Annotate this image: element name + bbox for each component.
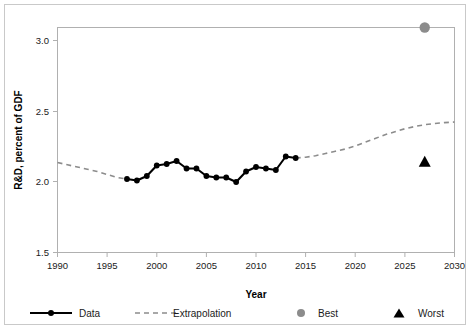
data-point-marker [293, 155, 299, 161]
legend-label-data: Data [79, 308, 101, 319]
data-point-marker [174, 158, 180, 164]
legend-item-best[interactable]: Best [297, 308, 338, 319]
x-tick-label: 1990 [47, 260, 68, 271]
x-tick-label: 2000 [146, 260, 167, 271]
plot-area-frame [58, 28, 455, 253]
y-tick-label: 3.0 [36, 35, 49, 46]
data-point-marker [134, 178, 140, 184]
data-point-marker [144, 173, 150, 179]
data-point-marker [213, 175, 219, 181]
legend-label-worst: Worst [418, 308, 444, 319]
data-point-marker [273, 167, 279, 173]
data-point-marker [124, 176, 130, 182]
data-point-marker [283, 154, 289, 160]
x-tick-label: 2015 [295, 260, 316, 271]
data-point-marker [223, 175, 229, 181]
legend-circle-best [297, 309, 305, 317]
legend-item-extrapolation[interactable]: Extrapolation [135, 308, 231, 319]
chart-figure: 3.0 2.5 2.0 1.5 R&D, percent of GDF 1990… [0, 0, 471, 330]
x-tick-label: 1995 [97, 260, 118, 271]
y-tick-label: 2.0 [36, 176, 49, 187]
data-point-marker [243, 169, 249, 175]
data-point-marker [263, 166, 269, 172]
y-axis-title: R&D, percent of GDF [13, 90, 24, 189]
chart-canvas: 3.0 2.5 2.0 1.5 R&D, percent of GDF 1990… [0, 0, 471, 330]
chart-legend: Data Extrapolation Best Worst [30, 308, 444, 319]
data-point-marker [253, 164, 259, 170]
x-tick-label: 2030 [444, 260, 465, 271]
legend-triangle-worst [394, 309, 405, 318]
data-point-marker [154, 163, 160, 169]
data-point-marker [233, 179, 239, 185]
legend-label-extrapolation: Extrapolation [173, 308, 231, 319]
legend-circle-data [48, 310, 54, 316]
x-tick-label: 2020 [345, 260, 366, 271]
x-tick-label: 2025 [394, 260, 415, 271]
x-axis: 1990 1995 2000 2005 2010 2015 2020 2025 … [47, 253, 465, 272]
y-tick-label: 1.5 [36, 247, 49, 258]
x-axis-title: Year [245, 289, 266, 300]
legend-item-worst[interactable]: Worst [394, 308, 445, 319]
data-point-marker [184, 166, 190, 172]
legend-label-best: Best [318, 308, 338, 319]
legend-item-data[interactable]: Data [30, 308, 101, 319]
data-point-marker [194, 166, 200, 172]
best-marker [420, 22, 430, 32]
x-tick-label: 2010 [245, 260, 266, 271]
data-point-marker [164, 161, 170, 167]
data-point-marker [203, 173, 209, 179]
x-tick-label: 2005 [196, 260, 217, 271]
y-tick-label: 2.5 [36, 106, 49, 117]
y-axis: 3.0 2.5 2.0 1.5 [36, 35, 58, 258]
